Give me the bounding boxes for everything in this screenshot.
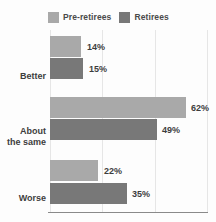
bar-value-worse-retirees: 35%: [132, 189, 150, 199]
gridline-72: [207, 30, 208, 212]
category-axis-labels: Better About the same Worse: [0, 30, 46, 212]
category-label-worse: Worse: [0, 193, 46, 204]
category-label-about-line2: the same: [0, 137, 46, 148]
bar-value-better-pre-retirees: 14%: [87, 42, 105, 52]
legend-item-pre-retirees[interactable]: Pre-retirees: [48, 12, 111, 23]
legend-swatch-retirees: [119, 12, 130, 23]
bar-value-worse-pre-retirees: 22%: [104, 166, 122, 176]
x-axis-baseline: [48, 212, 208, 213]
legend-label-retirees: Retirees: [134, 12, 168, 22]
bar-better-pre-retirees[interactable]: [50, 36, 81, 57]
category-label-better-line1: Better: [0, 71, 46, 82]
legend-item-retirees[interactable]: Retirees: [119, 12, 168, 23]
plot-area: 14% 15% 62% 49% 22%: [50, 30, 208, 212]
bar-better-retirees[interactable]: [50, 58, 83, 79]
legend-label-pre-retirees: Pre-retirees: [63, 12, 111, 22]
bar-worse-pre-retirees[interactable]: [50, 160, 98, 181]
bar-worse-retirees[interactable]: [50, 183, 127, 204]
bar-value-about-pre-retirees: 62%: [191, 103, 209, 113]
category-label-about-the-same: About the same: [0, 126, 46, 148]
category-label-about-line1: About: [0, 126, 46, 137]
chart-legend: Pre-retirees Retirees: [48, 9, 208, 25]
category-label-worse-line1: Worse: [0, 193, 46, 204]
bar-value-better-retirees: 15%: [89, 64, 107, 74]
legend-swatch-pre-retirees: [48, 12, 59, 23]
bar-about-pre-retirees[interactable]: [50, 97, 186, 118]
bar-value-about-retirees: 49%: [162, 125, 180, 135]
bar-about-retirees[interactable]: [50, 119, 157, 140]
category-label-better: Better: [0, 71, 46, 82]
grouped-bar-chart: Pre-retirees Retirees Better About the s…: [0, 0, 216, 222]
